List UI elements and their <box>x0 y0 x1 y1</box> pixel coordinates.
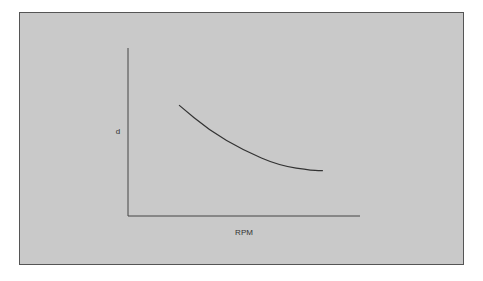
series-line <box>179 105 323 171</box>
chart: d RPM <box>0 0 483 281</box>
x-axis-label: RPM <box>235 228 253 237</box>
y-axis-label: d <box>116 127 120 136</box>
